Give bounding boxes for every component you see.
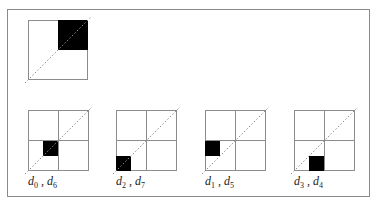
- panel-d0-d6: [25, 107, 92, 174]
- label-subscript: 4: [319, 181, 323, 190]
- panel-label-d2-d7: d2 , d7: [116, 174, 145, 190]
- label-subscript: 6: [53, 181, 57, 190]
- label-subscript: 2: [122, 181, 126, 190]
- panel-d1-d5: [202, 107, 269, 174]
- label-subscript: 1: [211, 181, 215, 190]
- panel-d3-d4: [291, 107, 358, 174]
- panel-label-d0-d6: d0 , d6: [28, 174, 57, 190]
- label-separator: ,: [41, 174, 44, 188]
- label-subscript: 0: [34, 181, 38, 190]
- panel-label-d3-d4: d3 , d4: [294, 174, 323, 190]
- panel-d2-d7: [113, 107, 180, 174]
- label-separator: ,: [307, 174, 310, 188]
- label-separator: ,: [129, 174, 132, 188]
- panel-label-d1-d5: d1 , d5: [205, 174, 234, 190]
- filled-cell: [309, 156, 324, 171]
- diagram-canvas: [0, 0, 380, 206]
- top-block-diagram: [25, 17, 91, 83]
- label-subscript: 7: [141, 181, 145, 190]
- filled-cell: [205, 141, 220, 156]
- label-separator: ,: [218, 174, 221, 188]
- label-subscript: 5: [230, 181, 234, 190]
- label-subscript: 3: [300, 181, 304, 190]
